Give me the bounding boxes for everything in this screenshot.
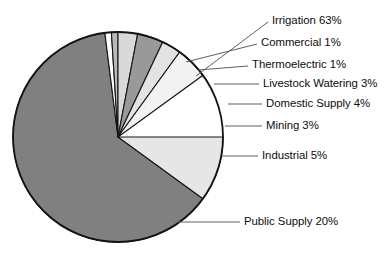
slice-label-irrigation: Irrigation 63%: [272, 14, 342, 27]
pie-slices-group: Irrigation 63%Commercial 1%Thermoelectri…: [13, 32, 223, 242]
slice-label-thermoelectric: Thermoelectric 1%: [252, 58, 346, 71]
slice-label-public-supply: Public Supply 20%: [244, 215, 338, 228]
slice-label-commercial: Commercial 1%: [261, 36, 341, 49]
slice-label-domestic-supply: Domestic Supply 4%: [266, 97, 370, 110]
slice-label-livestock-watering: Livestock Watering 3%: [263, 77, 377, 90]
slice-label-mining: Mining 3%: [266, 119, 319, 132]
chart-canvas: Irrigation 63%Commercial 1%Thermoelectri…: [0, 0, 387, 259]
leader-line-commercial: [186, 44, 257, 62]
leader-line-thermoelectric: [198, 66, 248, 70]
slice-label-industrial: Industrial 5%: [262, 149, 327, 162]
